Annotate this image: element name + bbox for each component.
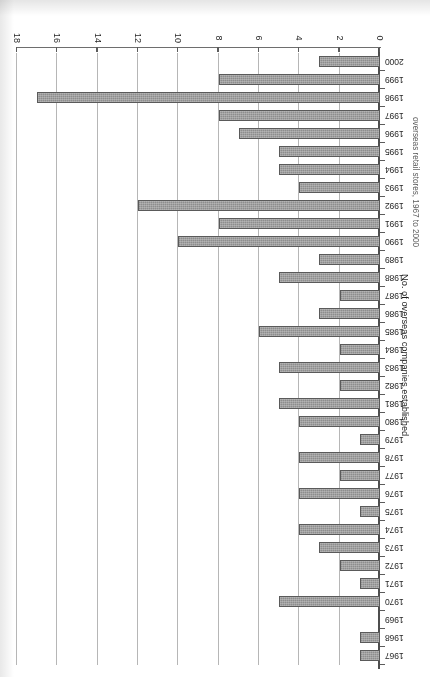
bar-row: 1980: [17, 413, 380, 431]
bar-row: 1994: [17, 161, 380, 179]
category-tick-mark: [380, 88, 385, 89]
bar-row: 1990: [17, 233, 380, 251]
bar: [360, 579, 380, 590]
category-tick-mark: [380, 340, 385, 341]
category-label: 1971: [385, 579, 419, 589]
value-tick-label: 18: [12, 29, 22, 47]
bar-row: 1974: [17, 521, 380, 539]
category-label: 1978: [385, 453, 419, 463]
bar: [360, 507, 380, 518]
category-tick-mark: [380, 466, 385, 467]
category-tick-mark: [380, 70, 385, 71]
value-tick-mark: [379, 47, 380, 52]
category-tick-mark: [380, 196, 385, 197]
category-tick-mark: [380, 592, 385, 593]
bar: [299, 525, 380, 536]
category-label: 1975: [385, 507, 419, 517]
category-label: 1999: [385, 75, 419, 85]
category-label: 1969: [385, 615, 419, 625]
bar: [340, 291, 380, 302]
bar-row: 1986: [17, 305, 380, 323]
category-tick-mark: [380, 556, 385, 557]
category-tick-mark: [380, 322, 385, 323]
bar-row: 1996: [17, 125, 380, 143]
value-tick-mark: [56, 47, 57, 52]
bar: [360, 651, 380, 662]
bar: [320, 255, 381, 266]
bar: [279, 597, 380, 608]
bars-group: 1967196819691970197119721973197419751976…: [17, 53, 380, 665]
bar: [37, 93, 380, 104]
category-label: 1967: [385, 651, 419, 661]
category-label: 2000: [385, 57, 419, 67]
category-label: 1974: [385, 525, 419, 535]
category-tick-mark: [380, 394, 385, 395]
value-axis-line: [16, 47, 381, 48]
bar: [360, 435, 380, 446]
bar-row: 1978: [17, 449, 380, 467]
category-tick-mark: [380, 610, 385, 611]
bar-row: 1985: [17, 323, 380, 341]
value-tick-mark: [177, 47, 178, 52]
value-tick-label: 16: [52, 29, 62, 47]
category-tick-mark: [380, 142, 385, 143]
bar: [320, 57, 381, 68]
category-tick-mark: [380, 232, 385, 233]
value-tick-mark: [338, 47, 339, 52]
bar: [340, 471, 380, 482]
value-tick-label: 2: [335, 29, 345, 47]
bar: [299, 183, 380, 194]
chart-plot-area: 1967196819691970197119721973197419751976…: [0, 0, 430, 677]
category-tick-mark: [380, 484, 385, 485]
category-tick-mark: [380, 574, 385, 575]
bar-row: 1968: [17, 629, 380, 647]
value-tick-mark: [298, 47, 299, 52]
bar: [239, 129, 380, 140]
bar-row: 1973: [17, 539, 380, 557]
bar-row: 1984: [17, 341, 380, 359]
category-tick-mark: [380, 124, 385, 125]
value-tick-mark: [217, 47, 218, 52]
value-tick-label: 6: [254, 29, 264, 47]
bar: [299, 417, 380, 428]
category-tick-mark: [380, 520, 385, 521]
category-label: 1972: [385, 561, 419, 571]
category-tick-mark: [380, 286, 385, 287]
bar: [219, 75, 380, 86]
value-tick-mark: [258, 47, 259, 52]
category-tick-mark: [380, 358, 385, 359]
bar: [340, 381, 380, 392]
value-tick-label: 4: [294, 29, 304, 47]
category-label: 1970: [385, 597, 419, 607]
bar: [138, 201, 380, 212]
category-tick-mark: [380, 106, 385, 107]
category-tick-mark: [380, 268, 385, 269]
value-tick-label: 8: [214, 29, 224, 47]
category-tick-mark: [380, 304, 385, 305]
category-tick-mark: [380, 502, 385, 503]
value-tick-label: 14: [93, 29, 103, 47]
bar-row: 1997: [17, 107, 380, 125]
chart-figure: 1967196819691970197119721973197419751976…: [0, 0, 430, 677]
category-tick-mark: [380, 430, 385, 431]
bar-row: 1969: [17, 611, 380, 629]
value-tick-mark: [96, 47, 97, 52]
bar-row: 1982: [17, 377, 380, 395]
bar: [279, 399, 380, 410]
category-label: 1979: [385, 435, 419, 445]
category-tick-mark: [380, 160, 385, 161]
bar: [360, 633, 380, 644]
bar-row: 1970: [17, 593, 380, 611]
category-label: 1998: [385, 93, 419, 103]
category-label: 1973: [385, 543, 419, 553]
bar-row: 1971: [17, 575, 380, 593]
category-tick-mark: [380, 664, 385, 665]
bar-row: 1998: [17, 89, 380, 107]
value-tick-mark: [137, 47, 138, 52]
category-tick-mark: [380, 214, 385, 215]
category-tick-mark: [380, 412, 385, 413]
bar-row: 1987: [17, 287, 380, 305]
value-tick-label: 12: [133, 29, 143, 47]
category-tick-mark: [380, 448, 385, 449]
bar: [340, 561, 380, 572]
